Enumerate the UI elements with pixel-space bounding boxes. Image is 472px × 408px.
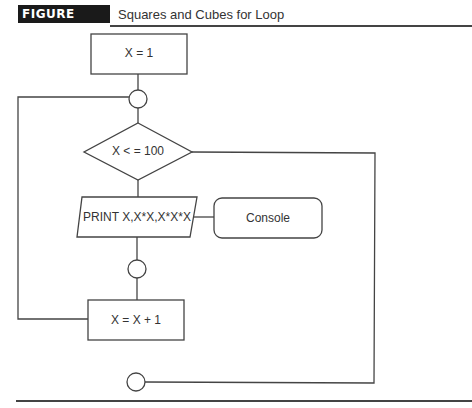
connector-top bbox=[129, 90, 147, 108]
flowchart bbox=[0, 0, 472, 408]
console-text: Console bbox=[214, 211, 322, 225]
print-text: PRINT X,X*X,X*X*X bbox=[77, 210, 197, 224]
bottom-rule bbox=[16, 400, 472, 402]
connector-mid bbox=[128, 260, 146, 278]
init-text: X = 1 bbox=[91, 46, 187, 60]
decision-text: X < = 100 bbox=[84, 144, 192, 158]
increment-text: X = X + 1 bbox=[88, 313, 184, 327]
connector-end bbox=[127, 373, 145, 391]
edge-exit bbox=[145, 152, 375, 383]
